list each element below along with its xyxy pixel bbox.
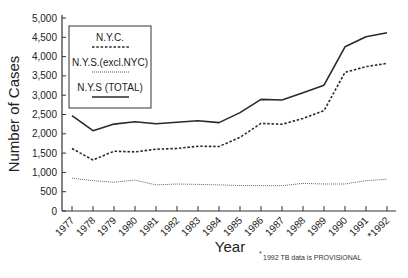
x-tick-label: 1977 [53, 214, 77, 238]
x-tick-label: 1981 [137, 214, 161, 238]
x-tick-label: 1984 [200, 214, 224, 238]
footnote: * 1992 TB data is PROVISIONAL [259, 250, 361, 261]
x-tick-label: 1990 [326, 214, 350, 238]
y-tick-label: 1,000 [32, 167, 57, 178]
x-tick-label: 1982 [158, 214, 182, 238]
y-tick-label: 2,000 [32, 128, 57, 139]
x-tick-label: 1987 [263, 214, 287, 238]
legend: N.Y.C. N.Y.S.(excl.NYC) N.Y.S (TOTAL) [69, 26, 151, 108]
line-chart: 05001,0001,5002,0002,5003,0003,5004,0004… [0, 0, 408, 278]
y-tick-label: 4,500 [32, 32, 57, 43]
x-tick-label: 1986 [242, 214, 266, 238]
y-axis: 05001,0001,5002,0002,5003,0003,5004,0004… [32, 13, 66, 217]
legend-label-nys-excl: N.Y.S.(excl.NYC) [72, 57, 148, 68]
x-tick-label: *1992 [365, 214, 392, 241]
series-line-dotted [72, 178, 387, 186]
x-tick-label: 1980 [116, 214, 140, 238]
y-tick-label: 5,000 [32, 13, 57, 24]
x-tick-label: 1985 [221, 214, 245, 238]
y-axis-title: Number of Cases [5, 56, 22, 173]
x-tick-label: 1988 [284, 214, 308, 238]
x-axis: 1977197819791980198119821983198419851986… [53, 206, 396, 241]
y-tick-label: 1,500 [32, 148, 57, 159]
x-tick-label: 1983 [179, 214, 203, 238]
legend-label-nys-total: N.Y.S (TOTAL) [77, 82, 143, 93]
footnote-text: 1992 TB data is PROVISIONAL [263, 254, 361, 261]
x-axis-title: Year [215, 238, 245, 255]
y-tick-label: 500 [40, 186, 57, 197]
y-tick-label: 3,500 [32, 70, 57, 81]
legend-label-nyc: N.Y.C. [96, 32, 124, 43]
y-tick-label: 0 [51, 206, 57, 217]
x-tick-label: 1979 [95, 214, 119, 238]
footnote-marker: * [259, 250, 262, 257]
x-tick-label: 1989 [305, 214, 329, 238]
y-tick-label: 2,500 [32, 109, 57, 120]
y-tick-label: 3,000 [32, 90, 57, 101]
x-tick-label: 1978 [74, 214, 98, 238]
y-tick-label: 4,000 [32, 51, 57, 62]
